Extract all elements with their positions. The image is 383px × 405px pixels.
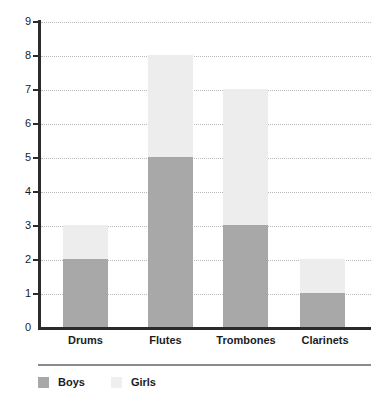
gridline <box>41 124 371 125</box>
y-tick <box>33 225 39 227</box>
y-axis-label: 1 <box>9 288 31 299</box>
y-axis-label: 2 <box>9 254 31 265</box>
bar-clarinets <box>300 259 345 327</box>
x-axis-label-drums: Drums <box>48 334 123 347</box>
y-axis-label: 7 <box>9 84 31 95</box>
y-axis-label: 9 <box>9 16 31 27</box>
legend-swatch-boys-icon <box>38 377 49 388</box>
gridline <box>41 192 371 193</box>
gridline <box>41 56 371 57</box>
y-tick <box>33 157 39 159</box>
y-axis-label: 8 <box>9 50 31 61</box>
bar-segment-girls-trombones <box>223 89 268 225</box>
x-axis-label-clarinets: Clarinets <box>285 334 365 347</box>
stacked-bar-chart: 9 8 7 6 5 4 3 2 1 0 Drums Flutes Trombon… <box>0 0 383 405</box>
y-tick <box>33 293 39 295</box>
bar-segment-girls-clarinets <box>300 259 345 293</box>
x-axis-line <box>38 327 371 330</box>
gridline <box>41 158 371 159</box>
gridline <box>41 22 371 23</box>
bar-segment-boys-drums <box>63 259 108 327</box>
x-axis-label-flutes: Flutes <box>128 334 203 347</box>
y-axis-label: 6 <box>9 118 31 129</box>
legend: Boys Girls <box>38 376 182 388</box>
y-axis-label: 0 <box>9 322 31 333</box>
legend-item-boys: Boys <box>38 376 85 388</box>
bar-segment-girls-drums <box>63 225 108 259</box>
legend-swatch-girls-icon <box>111 377 122 388</box>
bar-drums <box>63 225 108 327</box>
y-tick <box>33 89 39 91</box>
bar-segment-boys-flutes <box>148 157 193 327</box>
bar-segment-boys-trombones <box>223 225 268 327</box>
bar-flutes <box>148 55 193 327</box>
y-tick <box>33 21 39 23</box>
y-axis-line <box>38 20 41 330</box>
y-axis-label: 3 <box>9 220 31 231</box>
legend-divider <box>38 364 371 366</box>
legend-item-girls: Girls <box>111 376 156 388</box>
y-tick <box>33 191 39 193</box>
x-axis-label-trombones: Trombones <box>202 334 290 347</box>
legend-label-girls: Girls <box>131 376 156 388</box>
y-axis-labels: 9 8 7 6 5 4 3 2 1 0 <box>0 0 31 405</box>
bar-segment-girls-flutes <box>148 55 193 157</box>
y-tick <box>33 55 39 57</box>
y-tick <box>33 259 39 261</box>
gridline <box>41 90 371 91</box>
bar-trombones <box>223 89 268 327</box>
y-tick <box>33 123 39 125</box>
legend-label-boys: Boys <box>58 376 85 388</box>
y-axis-label: 4 <box>9 186 31 197</box>
bar-segment-boys-clarinets <box>300 293 345 327</box>
y-axis-label: 5 <box>9 152 31 163</box>
